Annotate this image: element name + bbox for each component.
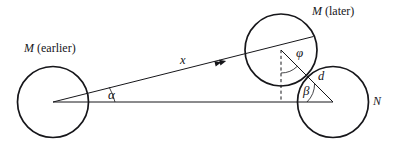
label-phi: φ (296, 46, 303, 59)
label-m-earlier: M (earlier) (24, 42, 76, 54)
label-d: d (318, 70, 324, 83)
label-x: x (180, 54, 186, 67)
label-m-later: M (later) (312, 5, 354, 17)
diagram-canvas (0, 0, 399, 147)
phi-arc (281, 66, 297, 73)
label-beta: β (303, 84, 309, 97)
label-m-later-qualifier: (later) (322, 4, 354, 18)
geometry-diagram: M (earlier) M (later) N x d α β φ (0, 0, 399, 147)
label-m-later-symbol: M (312, 4, 322, 18)
label-m-earlier-symbol: M (24, 41, 34, 55)
label-alpha: α (108, 88, 115, 101)
label-m-earlier-qualifier: (earlier) (34, 41, 76, 55)
x-segment (53, 37, 314, 103)
label-n: N (373, 95, 381, 107)
